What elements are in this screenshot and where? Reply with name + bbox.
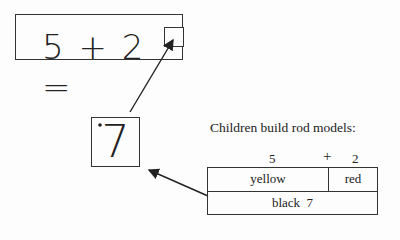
- rod-yellow: yellow: [208, 168, 329, 191]
- rod-label-2: 2: [352, 151, 359, 167]
- rod-label-plus: +: [323, 148, 331, 165]
- seven-dot-icon: [98, 123, 102, 127]
- rod-label-5: 5: [269, 151, 276, 167]
- rod-top-row: yellow red: [208, 168, 377, 192]
- rod-black: black 7: [208, 192, 377, 214]
- rod-model: yellow red black 7: [207, 167, 378, 215]
- arrow-from-rod-icon: [149, 170, 208, 196]
- caption: Children build rod models:: [210, 120, 356, 136]
- rod-red: red: [329, 168, 377, 191]
- arrow-to-answer-icon: [130, 40, 173, 112]
